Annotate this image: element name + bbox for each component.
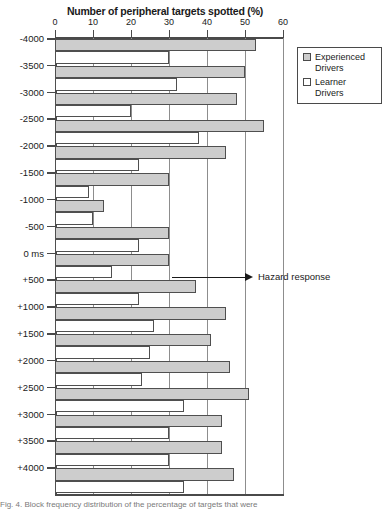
y-tick-0 ms [47,253,55,255]
bar-learner-+4000 [55,481,184,493]
y-tick--4000 [47,38,55,40]
bar-experienced-+4000 [55,468,234,480]
bar-learner-+2000 [55,373,142,385]
y-tick-label--500: -500 [25,220,44,231]
y-tick--1000 [47,199,55,201]
y-tick-+2500 [47,387,55,389]
y-tick-label-+2500: +2500 [17,381,44,392]
x-tick-label-10: 10 [88,17,98,27]
bar-learner--2000 [55,159,139,171]
hazard-response-label: Hazard response [258,271,330,282]
bar-experienced--1500 [55,173,169,185]
x-tick-40 [207,30,208,37]
y-tick-label-+1000: +1000 [17,301,44,312]
x-tick-label-40: 40 [202,17,212,27]
y-tick--3500 [47,65,55,67]
bar-experienced--2000 [55,146,226,158]
figure-caption: Fig. 4. Block frequency distribution of … [0,500,390,509]
legend-label-experienced: Experienced Drivers [315,52,377,74]
bar-learner-+500 [55,293,139,305]
bar-experienced-+2000 [55,361,230,373]
y-tick--2500 [47,118,55,120]
chart-title: Number of peripheral targets spotted (%) [0,5,330,17]
chart-figure: Number of peripheral targets spotted (%)… [0,0,390,509]
y-tick-+2000 [47,360,55,362]
bar-experienced--1000 [55,200,104,212]
legend-item-learner: Learner Drivers [303,77,377,99]
x-tick-label-60: 60 [278,17,288,27]
x-axis-bottom-line [55,494,284,496]
plot-area [55,38,283,494]
bar-learner--1500 [55,186,89,198]
legend-label-learner: Learner Drivers [315,77,377,99]
bar-learner--3000 [55,105,131,117]
y-tick-label-0 ms: 0 ms [23,247,44,258]
bar-learner--500 [55,239,139,251]
x-tick-label-0: 0 [52,17,57,27]
bar-learner--4000 [55,51,169,63]
x-tick-label-30: 30 [164,17,174,27]
bar-experienced-+3000 [55,415,222,427]
y-tick-label--2500: -2500 [20,113,44,124]
y-tick-label--2000: -2000 [20,140,44,151]
x-tick-label-20: 20 [126,17,136,27]
y-tick-label--3500: -3500 [20,59,44,70]
bar-experienced--500 [55,227,169,239]
bar-learner-0 ms [55,266,112,278]
bar-learner-+1000 [55,320,154,332]
bar-learner-+3000 [55,427,169,439]
bar-experienced--4000 [55,39,256,51]
bar-learner-+2500 [55,400,184,412]
bar-experienced--3000 [55,93,237,105]
y-tick--500 [47,226,55,228]
x-tick-50 [245,30,246,37]
gridline-60 [283,38,284,494]
y-tick-+1500 [47,333,55,335]
y-tick-label--4000: -4000 [20,33,44,44]
y-tick-label--1500: -1500 [20,167,44,178]
y-tick--3000 [47,92,55,94]
legend-swatch-learner-icon [303,78,311,86]
chart-legend: Experienced Drivers Learner Drivers [297,47,382,104]
y-tick-label-+3000: +3000 [17,408,44,419]
y-tick--1500 [47,172,55,174]
bar-experienced-+2500 [55,388,249,400]
bar-experienced-+500 [55,280,196,292]
bar-experienced-0 ms [55,254,169,266]
bar-experienced--3500 [55,66,245,78]
y-tick-+1000 [47,306,55,308]
bar-learner-+1500 [55,346,150,358]
y-tick--2000 [47,145,55,147]
bar-learner--1000 [55,212,93,224]
x-tick-30 [169,30,170,37]
y-tick-label-+500: +500 [23,274,44,285]
y-tick-label--1000: -1000 [20,193,44,204]
legend-item-experienced: Experienced Drivers [303,52,377,74]
y-tick-label--3000: -3000 [20,86,44,97]
x-tick-60 [283,30,284,37]
bar-learner-+3500 [55,454,169,466]
hazard-response-arrow-line [172,277,246,278]
y-tick-+3000 [47,414,55,416]
bar-learner--3500 [55,78,177,90]
legend-swatch-experienced-icon [303,53,311,61]
y-tick-label-+1500: +1500 [17,328,44,339]
y-tick-label-+4000: +4000 [17,462,44,473]
bar-experienced-+1500 [55,334,211,346]
y-tick-+500 [47,279,55,281]
x-tick-0 [55,30,56,37]
y-tick-+4000 [47,467,55,469]
bar-experienced-+3500 [55,441,222,453]
arrow-right-icon [245,273,253,281]
gridline-50 [245,38,246,494]
bar-experienced--2500 [55,120,264,132]
bar-learner--2500 [55,132,199,144]
bar-experienced-+1000 [55,307,226,319]
y-tick-label-+3500: +3500 [17,435,44,446]
y-tick-+3500 [47,440,55,442]
x-tick-label-50: 50 [240,17,250,27]
y-tick-label-+2000: +2000 [17,354,44,365]
x-tick-10 [93,30,94,37]
x-tick-20 [131,30,132,37]
